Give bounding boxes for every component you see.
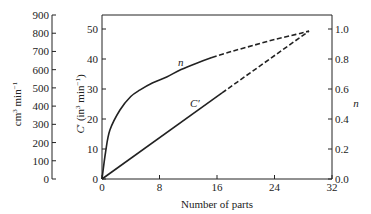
- cm3-tick-label: 500: [33, 82, 50, 94]
- cm3-tick-label: 300: [33, 118, 50, 130]
- x-tick-label: 32: [327, 181, 338, 193]
- y-tick-label: 10: [87, 143, 99, 155]
- curve-label-c-prime: C′: [190, 97, 200, 109]
- right-tick-label: 0.8: [335, 53, 349, 65]
- cm3-tick-label: 200: [33, 137, 50, 149]
- x-tick-label: 0: [99, 181, 105, 193]
- right-tick-label: 0.6: [335, 83, 349, 95]
- y-tick-label: 0: [93, 173, 99, 185]
- cm3-axis: 0100200300400500600700800900: [33, 9, 57, 185]
- cm3-tick-label: 100: [33, 155, 50, 167]
- cm3-tick-label: 0: [44, 173, 50, 185]
- series-n-solid: [102, 58, 212, 180]
- series-c-prime-dashed: [222, 31, 309, 93]
- x-tick-label: 24: [269, 181, 281, 193]
- series-n-dashed: [212, 31, 309, 57]
- left-axis: 01020304050: [87, 23, 106, 185]
- y-tick-label: 40: [87, 53, 99, 65]
- cm3-tick-label: 700: [33, 45, 50, 57]
- cm3-tick-label: 400: [33, 100, 50, 112]
- y-axis-title-cm3: cm3 min−1: [11, 81, 23, 126]
- x-tick-label: 16: [212, 181, 224, 193]
- chart: 0100200300400500600700800900 01020304050…: [0, 0, 371, 214]
- x-axis: 08162432: [99, 175, 337, 193]
- right-tick-label: 1.0: [335, 23, 349, 35]
- y-tick-label: 30: [87, 83, 99, 95]
- series-c-prime-solid: [102, 93, 222, 179]
- y-tick-label: 20: [87, 113, 99, 125]
- x-tick-label: 8: [157, 181, 163, 193]
- cm3-tick-label: 900: [33, 9, 50, 21]
- y-axis-title-main: C′ (in3 min−1): [74, 74, 87, 134]
- cm3-tick-label: 800: [33, 27, 50, 39]
- series-group: [102, 31, 309, 179]
- x-axis-title: Number of parts: [181, 198, 253, 210]
- chart-svg: 0100200300400500600700800900 01020304050…: [0, 0, 371, 214]
- y-tick-label: 50: [87, 23, 99, 35]
- cm3-tick-label: 600: [33, 64, 50, 76]
- curve-label-n: n: [178, 56, 184, 68]
- right-tick-label: 0.2: [335, 143, 349, 155]
- right-axis: 0.00.20.40.60.81.0: [328, 23, 349, 185]
- right-tick-label: 0.4: [335, 113, 349, 125]
- y-axis-title-right: n: [353, 97, 359, 109]
